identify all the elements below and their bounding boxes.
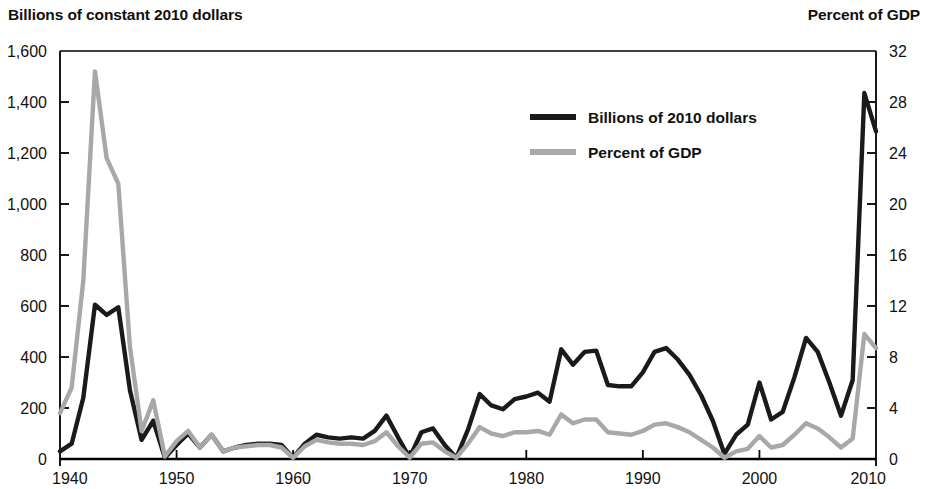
y2-axis-tick-label: 16	[889, 247, 907, 264]
x-axis-tick-label: 1980	[508, 470, 544, 487]
y2-axis-tick-label: 28	[889, 94, 907, 111]
x-axis-tick-label: 1970	[392, 470, 428, 487]
y-axis-tick-label: 1,200	[7, 145, 47, 162]
chart-figure: Billions of constant 2010 dollars Percen…	[0, 0, 930, 489]
y2-axis-tick-label: 20	[889, 196, 907, 213]
series-group	[60, 71, 876, 457]
legend-group: Billions of 2010 dollarsPercent of GDP	[530, 109, 757, 161]
x-axis-tick-label: 1990	[625, 470, 661, 487]
x-axis-tick-label: 2000	[742, 470, 778, 487]
y2-axis-tick-label: 24	[889, 145, 907, 162]
plot-area: 02004006008001,0001,2001,4001,6000481216…	[0, 0, 930, 489]
y2-axis-tick-label: 32	[889, 43, 907, 60]
y-axis-tick-label: 0	[38, 451, 47, 468]
line-chart-svg: 02004006008001,0001,2001,4001,6000481216…	[0, 0, 930, 489]
y-axis-tick-label: 1,400	[7, 94, 47, 111]
y-axis-tick-label: 400	[20, 349, 47, 366]
y2-axis-tick-label: 8	[889, 349, 898, 366]
x-axis-tick-label: 1950	[159, 470, 195, 487]
y2-axis-tick-label: 12	[889, 298, 907, 315]
y2-axis-tick-label: 0	[889, 451, 898, 468]
x-axis-tick-label: 1960	[275, 470, 311, 487]
y-axis-tick-label: 200	[20, 400, 47, 417]
legend-label-series2: Percent of GDP	[588, 144, 702, 161]
y2-axis-tick-label: 4	[889, 400, 898, 417]
legend-label-series1: Billions of 2010 dollars	[588, 109, 757, 126]
y-axis-tick-label: 600	[20, 298, 47, 315]
x-axis-tick-label: 1940	[52, 470, 88, 487]
y-axis-tick-label: 800	[20, 247, 47, 264]
y-axis-tick-label: 1,600	[7, 43, 47, 60]
series-line-1	[60, 93, 876, 458]
y-axis-tick-label: 1,000	[7, 196, 47, 213]
x-axis-tick-label: 2010	[850, 470, 886, 487]
